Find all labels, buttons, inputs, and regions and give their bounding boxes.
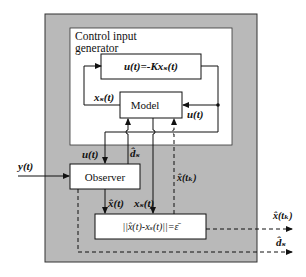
x-hat-tk-signal-label: x̂(tₖ) — [177, 172, 197, 184]
x-hat-signal-label: x̂(t) — [108, 197, 124, 209]
junction-dot — [216, 103, 220, 107]
u-signal-label-top: u(t) — [187, 108, 204, 120]
xs-signal-label-down: xₛ(t) — [134, 197, 154, 209]
control-law-label: u(t)=-Kxₛ(t) — [101, 54, 201, 79]
u-signal-label-observer: u(t) — [82, 148, 99, 160]
y-signal-label: y(t) — [18, 160, 33, 172]
observer-label: Observer — [70, 164, 140, 189]
model-label: Model — [120, 92, 170, 118]
d-hat-output-label: d̂ₛ — [276, 236, 286, 248]
d-hat-signal-label: d̂ₛ — [130, 147, 140, 159]
trigger-condition-label: ||x̂(t)-xₛ(t)||=ε̄ — [95, 214, 206, 239]
x-hat-tk-output-label: x̂(tₖ) — [273, 210, 293, 222]
xs-signal-label-left: xₛ(t) — [94, 91, 114, 103]
